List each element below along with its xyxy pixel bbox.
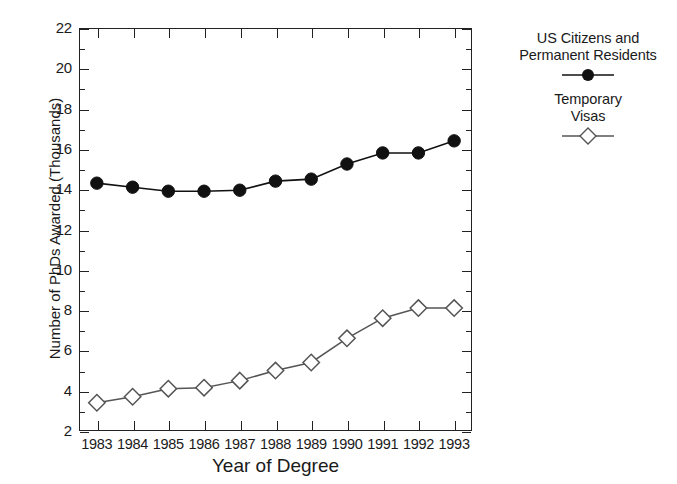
chart-legend: US Citizens and Permanent Residents Temp… bbox=[508, 30, 668, 152]
chart-figure: 246810121416182022 198319841985198619871… bbox=[0, 0, 677, 484]
data-point-open-diamond bbox=[124, 389, 140, 405]
data-point-filled-circle bbox=[91, 177, 103, 189]
series-1 bbox=[91, 135, 461, 198]
legend-label-line2: Visas bbox=[508, 108, 668, 125]
data-point-open-diamond bbox=[160, 380, 176, 396]
data-point-filled-circle bbox=[162, 185, 174, 197]
data-point-filled-circle bbox=[412, 147, 424, 159]
legend-marker-open-diamond-icon bbox=[508, 126, 668, 146]
series-2 bbox=[89, 300, 463, 411]
x-tick-label: 1993 bbox=[431, 436, 477, 452]
data-point-filled-circle bbox=[269, 175, 281, 187]
data-point-filled-circle bbox=[448, 135, 460, 147]
x-axis-tick-labels: 1983198419851986198719881989199019911992… bbox=[79, 436, 472, 456]
data-point-filled-circle bbox=[126, 181, 138, 193]
data-point-open-diamond bbox=[374, 310, 390, 326]
y-tick-major bbox=[462, 432, 471, 433]
y-tick-major bbox=[80, 432, 89, 433]
legend-label-line1: Temporary bbox=[508, 91, 668, 108]
data-point-open-diamond bbox=[89, 395, 105, 411]
data-point-open-diamond bbox=[196, 379, 212, 395]
data-point-filled-circle bbox=[234, 184, 246, 196]
data-point-open-diamond bbox=[339, 330, 355, 346]
data-point-open-diamond bbox=[232, 372, 248, 388]
legend-label-line2: Permanent Residents bbox=[508, 47, 668, 64]
data-point-filled-circle bbox=[305, 173, 317, 185]
data-point-filled-circle bbox=[376, 147, 388, 159]
data-point-filled-circle bbox=[341, 158, 353, 170]
y-axis-title: Number of PhDs Awarded (Thousands) bbox=[46, 19, 63, 439]
x-axis-title: Year of Degree bbox=[79, 455, 472, 477]
data-point-open-diamond bbox=[267, 362, 283, 378]
data-point-open-diamond bbox=[410, 300, 426, 316]
series-svg bbox=[79, 28, 472, 431]
data-point-open-diamond bbox=[446, 300, 462, 316]
legend-marker-filled-circle-icon bbox=[508, 65, 668, 85]
data-point-open-diamond bbox=[303, 354, 319, 370]
series-line bbox=[97, 308, 454, 403]
data-series-layer bbox=[79, 28, 472, 431]
legend-entry-temporary-visas: Temporary Visas bbox=[508, 91, 668, 146]
legend-entry-us-citizens: US Citizens and Permanent Residents bbox=[508, 30, 668, 85]
legend-label-line1: US Citizens and bbox=[508, 30, 668, 47]
data-point-filled-circle bbox=[198, 185, 210, 197]
